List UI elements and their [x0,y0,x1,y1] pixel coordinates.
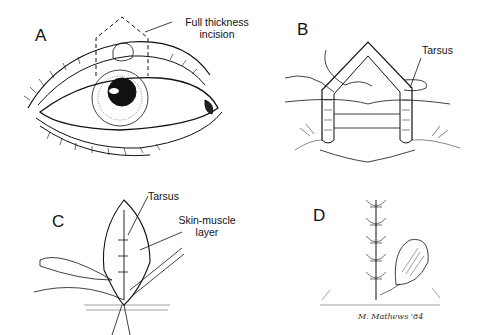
label-tarsus-c: Tarsus [148,190,179,202]
panel-label-b: B [297,20,308,40]
panel-label-d: D [313,206,325,226]
label-skin-muscle-layer: Skin-muscle layer [172,214,242,238]
label-line-1: Skin-muscle [172,214,242,226]
label-tarsus-b: Tarsus [422,44,453,56]
panel-label-a: A [35,26,46,46]
illustration-canvas [0,0,490,335]
panel-b-suture-drawing [285,42,460,162]
label-line-1: Full thickness [172,16,262,28]
label-line-2: layer [172,226,242,238]
artist-signature: M. Mathews '84 [358,312,423,321]
panel-d-drawing [320,200,440,305]
label-full-thickness-incision: Full thickness incision [172,16,262,40]
label-line-2: incision [172,28,262,40]
panel-label-c: C [52,212,64,232]
